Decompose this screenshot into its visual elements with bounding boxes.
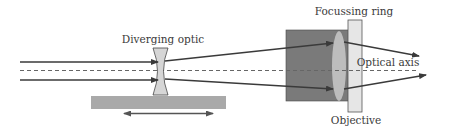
label-objective: Objective <box>331 114 381 126</box>
label-optical-axis: Optical axis <box>357 56 420 68</box>
label-diverging-optic: Diverging optic <box>122 33 204 45</box>
diverging-optic-lens <box>153 48 168 95</box>
optical-diagram: Diverging optic Focussing ring Optical a… <box>0 0 452 131</box>
translation-stage <box>91 96 226 109</box>
objective-lens <box>332 31 346 101</box>
label-focussing-ring: Focussing ring <box>315 5 394 17</box>
